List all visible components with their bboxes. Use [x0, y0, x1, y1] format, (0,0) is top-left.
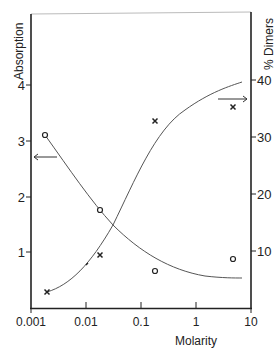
data-point-x: [45, 290, 50, 295]
x-tick-label: 0.01: [74, 315, 98, 329]
left-axis-arrow: [34, 154, 57, 160]
y-tick-label: 1: [18, 245, 25, 260]
left-y-axis-label: Absorption: [12, 23, 26, 80]
y-tick-label: 10: [257, 244, 271, 259]
data-point-x: [153, 119, 158, 124]
chart-svg: 0.001 0.01 0.1 1 10 Molarity 4 3 2 1 Abs…: [0, 0, 280, 356]
y-tick-label: 40: [257, 73, 271, 88]
y-tick-label: 20: [257, 187, 271, 202]
data-point-x: [231, 105, 236, 110]
x-axis-label: Molarity: [175, 334, 217, 348]
data-point-circle: [98, 208, 103, 213]
absorption-fit-curve: [45, 135, 242, 278]
x-tick-label: 0.001: [16, 315, 46, 329]
x-tick-labels: 0.001 0.01 0.1 1 10: [16, 315, 258, 329]
data-point-circle: [153, 269, 158, 274]
data-point-circle: [231, 257, 236, 262]
data-point-circle: [43, 133, 48, 138]
chart-container: 0.001 0.01 0.1 1 10 Molarity 4 3 2 1 Abs…: [0, 0, 280, 356]
y-tick-label: 30: [257, 130, 271, 145]
x-tick-label: 10: [244, 315, 258, 329]
x-tick-label: 0.1: [133, 315, 150, 329]
right-axis-arrow: [218, 96, 247, 102]
dimers-points: [45, 105, 236, 295]
y-tick-label: 2: [18, 190, 25, 205]
right-y-axis-label: % Dimers: [262, 18, 276, 70]
right-y-tick-labels: 40 30 20 10: [257, 73, 271, 259]
top-border: [31, 12, 251, 14]
y-tick-label: 3: [18, 134, 25, 149]
x-tick-label: 1: [193, 315, 200, 329]
left-y-tick-labels: 4 3 2 1: [18, 78, 25, 260]
data-point-x: [98, 253, 103, 258]
absorption-points: [43, 133, 236, 274]
dimers-fit-curve: [47, 82, 242, 292]
x-ticks: [31, 302, 251, 313]
